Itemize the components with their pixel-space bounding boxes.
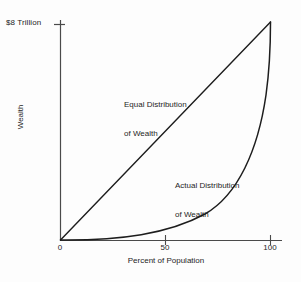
actual-distribution-annotation-line1: Actual Distribution (175, 181, 239, 191)
actual-distribution-annotation-line2: of Wealth (175, 210, 239, 220)
lorenz-curve-chart: $8 Trillion Wealth 0 50 100 Percent of P… (0, 0, 301, 282)
x-axis-tick-label-0: 0 (45, 243, 75, 253)
equal-distribution-annotation-line1: Equal Distribution (124, 100, 187, 110)
equal-distribution-annotation-line2: of Wealth (124, 129, 187, 139)
y-axis-title: Wealth (16, 87, 26, 147)
y-axis-max-label: $8 Trillion (6, 18, 41, 28)
actual-distribution-annotation: Actual Distribution of Wealth (175, 161, 239, 239)
x-axis-tick-label-100: 100 (255, 243, 285, 253)
x-axis-title: Percent of Population (60, 256, 272, 266)
equal-distribution-annotation: Equal Distribution of Wealth (124, 80, 187, 158)
x-axis-tick-label-50: 50 (150, 243, 180, 253)
